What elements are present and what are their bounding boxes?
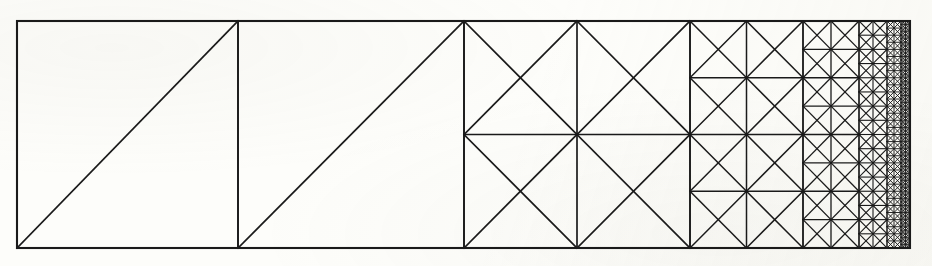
figure-root — [0, 0, 932, 266]
mesh-diagram — [0, 0, 932, 266]
